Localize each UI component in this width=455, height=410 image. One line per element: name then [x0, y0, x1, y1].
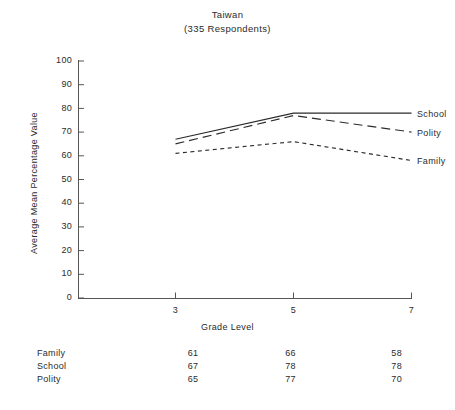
- x-tick-label-5: 5: [279, 305, 309, 315]
- x-axis-title: Grade Level: [0, 322, 455, 332]
- y-tick-label-90: 90: [44, 80, 72, 89]
- table-cell-grade-7: 58: [391, 348, 455, 361]
- table-cell-grade-5: 78: [285, 361, 391, 374]
- y-tick-label-60: 60: [44, 151, 72, 160]
- y-axis-ticks: [79, 61, 85, 298]
- series-line-family: [176, 142, 412, 161]
- y-tick-label-0: 0: [44, 293, 72, 302]
- y-tick-label-80: 80: [44, 104, 72, 113]
- y-tick-label-50: 50: [44, 175, 72, 184]
- y-tick-label-40: 40: [44, 198, 72, 207]
- series-line-polity: [176, 116, 412, 144]
- table-row: Family 61 66 58: [0, 348, 455, 361]
- y-axis-title: Average Mean Percentage Value: [29, 88, 39, 278]
- y-tick-label-30: 30: [44, 222, 72, 231]
- table-cell-grade-3: 61: [188, 348, 286, 361]
- y-tick-label-10: 10: [44, 269, 72, 278]
- table-cell-grade-5: 77: [285, 374, 391, 387]
- table-cell-grade-3: 67: [188, 361, 286, 374]
- data-table: Family 61 66 58 School 67 78 78 Polity 6…: [0, 348, 455, 387]
- series-label-school: School: [417, 109, 447, 119]
- table-cell-grade-3: 65: [188, 374, 286, 387]
- chart-figure: Taiwan (335 Respondents): [0, 0, 455, 410]
- table-row: Polity 65 77 70: [0, 374, 455, 387]
- x-tick-label-3: 3: [161, 305, 191, 315]
- table-cell-grade-5: 66: [285, 348, 391, 361]
- x-axis-ticks: [176, 293, 412, 299]
- table-row-label: School: [0, 361, 188, 374]
- x-tick-label-7: 7: [397, 305, 427, 315]
- table-row-label: Family: [0, 348, 188, 361]
- table-cell-grade-7: 70: [391, 374, 455, 387]
- table-cell-grade-7: 78: [391, 361, 455, 374]
- y-tick-label-20: 20: [44, 246, 72, 255]
- series-label-family: Family: [417, 156, 446, 166]
- table-row-label: Polity: [0, 374, 188, 387]
- table-row: School 67 78 78: [0, 361, 455, 374]
- y-tick-label-100: 100: [44, 56, 72, 65]
- y-tick-label-70: 70: [44, 127, 72, 136]
- series-label-polity: Polity: [417, 128, 441, 138]
